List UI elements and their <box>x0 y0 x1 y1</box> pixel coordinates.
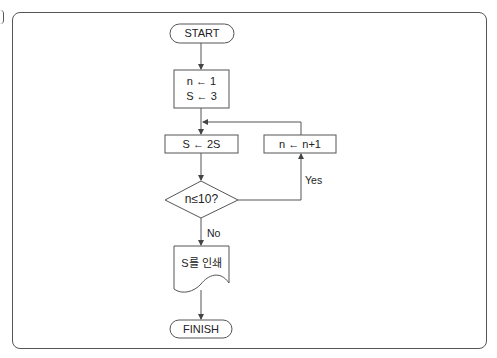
init-label: n ← 1 S ← 3 <box>174 74 229 104</box>
decision-label: n≤10? <box>165 192 238 207</box>
no-label: No <box>207 228 220 239</box>
double-label: S ← 2S <box>165 137 238 152</box>
finish-label: FINISH <box>170 322 232 337</box>
output-label: S를 인쇄 <box>174 256 229 271</box>
edge-yes <box>238 154 301 200</box>
init-line-n: n ← 1 <box>174 74 229 89</box>
increment-label: n ← n+1 <box>264 137 336 152</box>
edge-loop-return <box>203 122 301 135</box>
init-line-s: S ← 3 <box>174 89 229 104</box>
yes-label: Yes <box>305 175 322 186</box>
flowchart-canvas <box>0 0 497 358</box>
start-label: START <box>170 26 234 41</box>
